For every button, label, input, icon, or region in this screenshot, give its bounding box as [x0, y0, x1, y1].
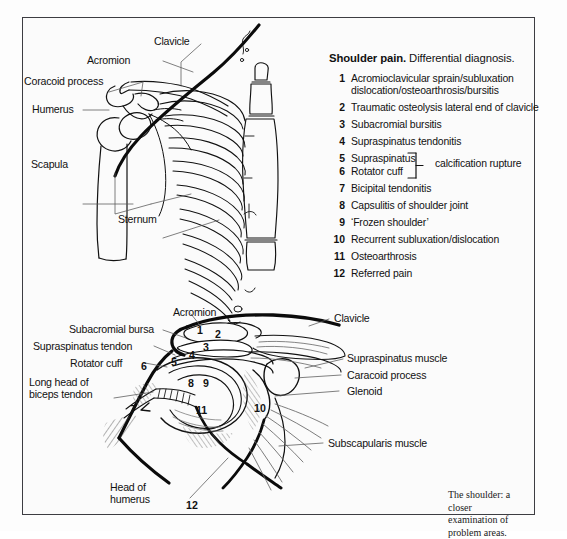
label-glenoid: Glenoid	[347, 385, 382, 397]
marker-1: 1	[197, 324, 203, 336]
caption-line1: The shoulder: a closer	[448, 489, 510, 513]
marker-6: 6	[141, 360, 147, 372]
figure-frame: Clavicle Acromion Coracoid process Humer…	[22, 17, 535, 515]
marker-5: 5	[171, 356, 177, 368]
label-head-of-humerus: Head of humerus	[110, 481, 150, 506]
label-supraspinatus-muscle: Supraspinatus muscle	[347, 352, 447, 364]
lower-diagram	[23, 18, 534, 514]
label-rotator-cuff: Rotator cuff	[70, 357, 122, 369]
label-supraspinatus-tendon: Supraspinatus tendon	[33, 340, 132, 352]
caption-line2: examination of problem areas.	[448, 514, 508, 538]
label-subscapularis-muscle: Subscapularis muscle	[328, 437, 427, 449]
marker-10: 10	[254, 402, 266, 414]
label-line2: biceps tendon	[29, 388, 92, 400]
marker-11: 11	[196, 404, 207, 416]
figure-caption: The shoulder: a closer examination of pr…	[448, 489, 534, 539]
marker-4: 4	[189, 349, 195, 361]
marker-2: 2	[215, 328, 221, 340]
marker-12: 12	[186, 499, 198, 511]
marker-9: 9	[203, 377, 209, 389]
marker-3: 3	[203, 341, 209, 353]
marker-7: 7	[130, 403, 136, 415]
label-acromion-lower: Acromion	[173, 306, 216, 318]
label-long-head-biceps-tendon: Long head of biceps tendon	[29, 376, 92, 401]
label-clavicle-lower: Clavicle	[334, 312, 370, 324]
label-line2: humerus	[110, 493, 150, 505]
label-line1: Long head of	[29, 376, 88, 388]
marker-8: 8	[188, 377, 194, 389]
label-caracoid-process: Caracoid process	[347, 369, 426, 381]
label-subacromial-bursa: Subacromial bursa	[69, 323, 154, 335]
label-line1: Head of	[110, 481, 146, 493]
